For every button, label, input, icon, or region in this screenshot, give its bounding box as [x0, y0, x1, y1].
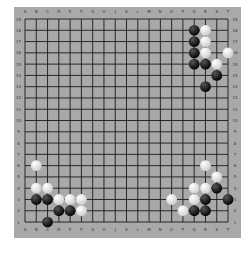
column-label: E: [69, 227, 72, 232]
row-label: 10: [16, 118, 22, 123]
white-stone-b4[interactable]: [31, 183, 42, 194]
row-label: 16: [16, 50, 22, 55]
column-label: J: [114, 227, 116, 232]
black-stone-r13[interactable]: [200, 81, 211, 92]
row-label: 3: [17, 197, 20, 202]
white-stone-r16[interactable]: [200, 47, 211, 58]
row-label: 9: [234, 129, 237, 134]
column-label: D: [57, 9, 60, 14]
column-label: O: [170, 227, 173, 232]
row-label: 18: [232, 28, 238, 33]
column-label: A: [24, 9, 27, 14]
black-stone-q2[interactable]: [189, 205, 200, 216]
column-label: L: [137, 9, 140, 14]
column-label: N: [159, 9, 162, 14]
row-label: 15: [232, 62, 238, 67]
row-label: 2: [17, 208, 20, 213]
white-stone-s5[interactable]: [211, 172, 222, 183]
white-stone-d3[interactable]: [53, 194, 64, 205]
black-stone-q18[interactable]: [189, 25, 200, 36]
column-label: Q: [193, 9, 196, 14]
row-label: 9: [17, 129, 20, 134]
column-label: S: [215, 9, 218, 14]
row-label: 1: [234, 220, 237, 225]
column-label: C: [46, 9, 49, 14]
row-label: 11: [232, 107, 238, 112]
column-label: E: [69, 9, 72, 14]
column-label: K: [125, 227, 128, 232]
white-stone-r4[interactable]: [200, 183, 211, 194]
column-label: C: [46, 227, 49, 232]
white-stone-f3[interactable]: [76, 194, 87, 205]
white-stone-f2[interactable]: [76, 205, 87, 216]
row-label: 4: [234, 186, 237, 191]
black-stone-r3[interactable]: [200, 194, 211, 205]
column-label: M: [147, 227, 151, 232]
column-label: B: [35, 9, 38, 14]
black-stone-q16[interactable]: [189, 47, 200, 58]
row-label: 14: [232, 73, 238, 78]
white-stone-s15[interactable]: [211, 59, 222, 70]
row-label: 13: [16, 84, 22, 89]
white-stone-c4[interactable]: [42, 183, 53, 194]
row-label: 8: [17, 141, 20, 146]
column-label: P: [182, 227, 185, 232]
black-stone-e2[interactable]: [65, 205, 76, 216]
row-label: 4: [17, 186, 20, 191]
row-label: 19: [16, 17, 22, 22]
row-label: 6: [234, 163, 237, 168]
black-stone-b3[interactable]: [31, 194, 42, 205]
row-label: 18: [16, 28, 22, 33]
column-label: O: [170, 9, 173, 14]
column-label: D: [57, 227, 60, 232]
white-stone-r17[interactable]: [200, 36, 211, 47]
white-stone-e3[interactable]: [65, 194, 76, 205]
white-stone-r18[interactable]: [200, 25, 211, 36]
black-stone-r2[interactable]: [200, 205, 211, 216]
black-stone-r15[interactable]: [200, 59, 211, 70]
white-stone-t16[interactable]: [223, 47, 234, 58]
column-label: H: [102, 227, 105, 232]
column-label: S: [215, 227, 218, 232]
black-stone-c1[interactable]: [42, 217, 53, 228]
row-label: 12: [16, 95, 22, 100]
row-label: 6: [17, 163, 20, 168]
column-label: P: [182, 9, 185, 14]
row-label: 17: [232, 39, 238, 44]
white-stone-o3[interactable]: [166, 194, 177, 205]
row-label: 15: [16, 62, 22, 67]
column-label: T: [226, 9, 230, 14]
black-stone-d2[interactable]: [53, 205, 64, 216]
column-label: G: [91, 9, 94, 14]
board-grid[interactable]: AABBCCDDEEFFGGHHJJKKLLMMNNOOPPQQRRSSTT19…: [14, 7, 241, 238]
column-label: N: [159, 227, 162, 232]
column-label: R: [204, 9, 207, 14]
black-stone-s14[interactable]: [211, 70, 222, 81]
white-stone-b6[interactable]: [31, 160, 42, 171]
white-stone-q3[interactable]: [189, 194, 200, 205]
go-board[interactable]: AABBCCDDEEFFGGHHJJKKLLMMNNOOPPQQRRSSTT19…: [14, 7, 241, 238]
column-label: Q: [193, 227, 196, 232]
row-label: 12: [232, 95, 238, 100]
row-label: 19: [232, 17, 238, 22]
black-stone-c3[interactable]: [42, 194, 53, 205]
row-label: 7: [234, 152, 237, 157]
black-stone-q15[interactable]: [189, 59, 200, 70]
black-stone-s4[interactable]: [211, 183, 222, 194]
column-label: M: [147, 9, 151, 14]
row-label: 3: [234, 197, 237, 202]
column-label: H: [102, 9, 105, 14]
black-stone-q17[interactable]: [189, 36, 200, 47]
row-label: 17: [16, 39, 22, 44]
row-label: 8: [234, 141, 237, 146]
column-label: F: [80, 9, 83, 14]
white-stone-q4[interactable]: [189, 183, 200, 194]
row-label: 7: [17, 152, 20, 157]
column-label: L: [137, 227, 140, 232]
white-stone-p2[interactable]: [178, 205, 189, 216]
row-label: 5: [17, 174, 20, 179]
white-stone-r6[interactable]: [200, 160, 211, 171]
column-label: K: [125, 9, 128, 14]
column-label: F: [80, 227, 83, 232]
black-stone-t3[interactable]: [223, 194, 234, 205]
